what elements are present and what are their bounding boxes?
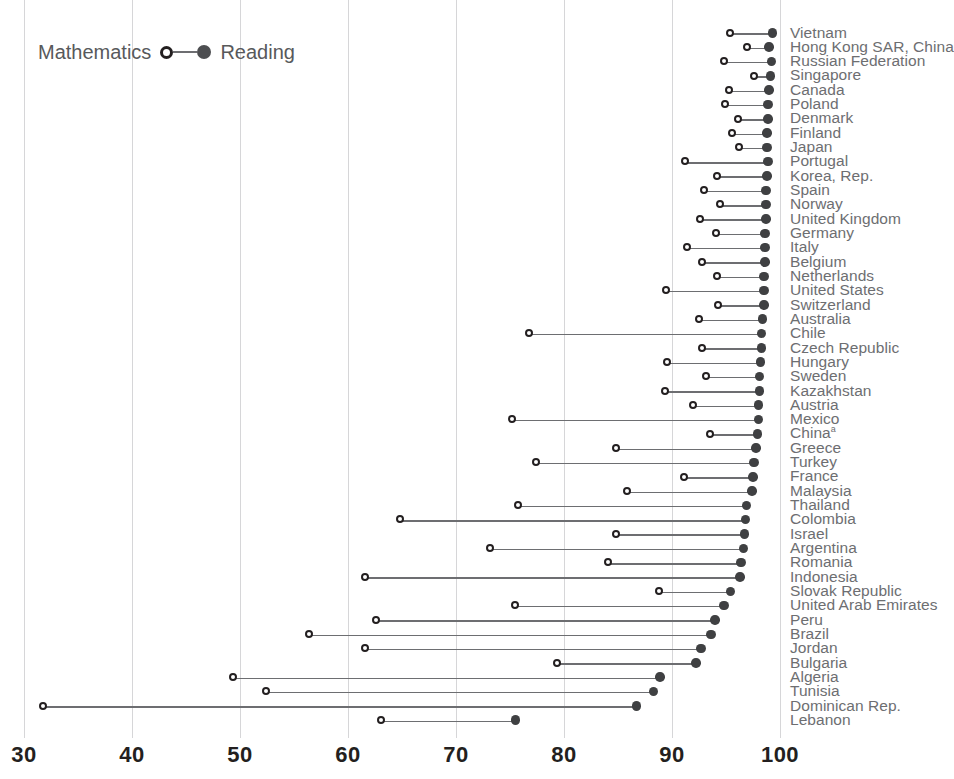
mathematics-dot[interactable] [612, 444, 620, 452]
reading-dot[interactable] [735, 572, 745, 582]
mathematics-dot[interactable] [713, 272, 721, 280]
reading-dot[interactable] [768, 28, 778, 38]
reading-dot[interactable] [719, 601, 729, 611]
mathematics-dot[interactable] [702, 372, 710, 380]
mathematics-dot[interactable] [725, 86, 733, 94]
reading-dot[interactable] [751, 443, 761, 453]
mathematics-dot[interactable] [689, 401, 697, 409]
mathematics-dot[interactable] [361, 573, 369, 581]
mathematics-dot[interactable] [662, 286, 670, 294]
reading-dot[interactable] [742, 501, 752, 511]
reading-dot[interactable] [706, 630, 716, 640]
mathematics-dot[interactable] [734, 115, 742, 123]
mathematics-dot[interactable] [377, 716, 385, 724]
mathematics-dot[interactable] [612, 530, 620, 538]
mathematics-dot[interactable] [698, 258, 706, 266]
reading-dot[interactable] [757, 329, 767, 339]
reading-dot[interactable] [762, 171, 772, 181]
reading-dot[interactable] [632, 701, 642, 711]
mathematics-dot[interactable] [604, 558, 612, 566]
mathematics-dot[interactable] [713, 172, 721, 180]
mathematics-dot[interactable] [623, 487, 631, 495]
mathematics-dot[interactable] [714, 301, 722, 309]
reading-dot[interactable] [696, 644, 706, 654]
reading-dot[interactable] [767, 57, 777, 67]
reading-dot[interactable] [760, 229, 770, 239]
reading-dot[interactable] [710, 615, 720, 625]
reading-dot[interactable] [691, 658, 701, 668]
reading-dot[interactable] [747, 486, 757, 496]
mathematics-dot[interactable] [721, 100, 729, 108]
mathematics-dot[interactable] [716, 200, 724, 208]
reading-dot[interactable] [649, 687, 659, 697]
reading-dot[interactable] [759, 272, 769, 282]
mathematics-dot[interactable] [655, 587, 663, 595]
mathematics-dot[interactable] [229, 673, 237, 681]
reading-dot[interactable] [766, 71, 776, 81]
reading-dot[interactable] [756, 357, 766, 367]
mathematics-dot[interactable] [720, 57, 728, 65]
reading-dot[interactable] [753, 429, 763, 439]
reading-dot[interactable] [763, 157, 773, 167]
mathematics-dot[interactable] [372, 616, 380, 624]
reading-dot[interactable] [754, 415, 764, 425]
reading-dot[interactable] [757, 343, 767, 353]
reading-dot[interactable] [739, 544, 749, 554]
mathematics-dot[interactable] [361, 644, 369, 652]
mathematics-dot[interactable] [525, 329, 533, 337]
mathematics-dot[interactable] [396, 515, 404, 523]
row-connector-line [669, 291, 764, 292]
reading-dot[interactable] [760, 257, 770, 267]
mathematics-dot[interactable] [700, 186, 708, 194]
reading-dot[interactable] [760, 243, 770, 253]
mathematics-dot[interactable] [698, 344, 706, 352]
mathematics-dot[interactable] [706, 430, 714, 438]
reading-dot[interactable] [764, 42, 774, 52]
mathematics-dot[interactable] [486, 544, 494, 552]
reading-dot[interactable] [749, 458, 759, 468]
mathematics-dot[interactable] [696, 215, 704, 223]
mathematics-dot[interactable] [743, 43, 751, 51]
reading-dot[interactable] [762, 143, 772, 153]
mathematics-dot[interactable] [728, 129, 736, 137]
mathematics-dot[interactable] [695, 315, 703, 323]
reading-dot[interactable] [740, 529, 750, 539]
mathematics-dot[interactable] [39, 702, 47, 710]
mathematics-dot[interactable] [750, 72, 758, 80]
reading-dot[interactable] [511, 715, 521, 725]
mathematics-dot[interactable] [735, 143, 743, 151]
reading-dot[interactable] [761, 214, 771, 224]
mathematics-dot[interactable] [663, 358, 671, 366]
mathematics-dot[interactable] [262, 687, 270, 695]
mathematics-dot[interactable] [553, 659, 561, 667]
mathematics-dot[interactable] [726, 29, 734, 37]
reading-dot[interactable] [759, 286, 769, 296]
reading-dot[interactable] [726, 587, 736, 597]
mathematics-dot[interactable] [680, 473, 688, 481]
mathematics-dot[interactable] [712, 229, 720, 237]
mathematics-dot[interactable] [514, 501, 522, 509]
reading-dot[interactable] [762, 128, 772, 138]
reading-dot[interactable] [761, 200, 771, 210]
reading-dot[interactable] [741, 515, 751, 525]
reading-dot[interactable] [763, 100, 773, 110]
reading-dot[interactable] [748, 472, 758, 482]
chart-row[interactable]: Lebanon [0, 714, 954, 728]
reading-dot[interactable] [754, 400, 764, 410]
mathematics-dot[interactable] [511, 601, 519, 609]
reading-dot[interactable] [763, 114, 773, 124]
reading-dot[interactable] [759, 300, 769, 310]
mathematics-dot[interactable] [305, 630, 313, 638]
mathematics-dot[interactable] [683, 243, 691, 251]
reading-dot[interactable] [736, 558, 746, 568]
mathematics-dot[interactable] [508, 415, 516, 423]
reading-dot[interactable] [758, 314, 768, 324]
reading-dot[interactable] [755, 386, 765, 396]
mathematics-dot[interactable] [681, 157, 689, 165]
reading-dot[interactable] [761, 186, 771, 196]
reading-dot[interactable] [655, 672, 665, 682]
mathematics-dot[interactable] [661, 387, 669, 395]
reading-dot[interactable] [755, 372, 765, 382]
mathematics-dot[interactable] [532, 458, 540, 466]
reading-dot[interactable] [764, 85, 774, 95]
